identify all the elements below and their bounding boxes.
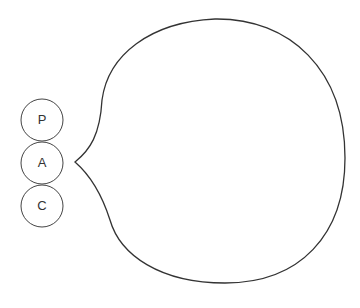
circle-label-p: P (21, 112, 63, 128)
diagram-canvas (0, 0, 360, 308)
speech-bubble-shape (75, 19, 345, 283)
circle-label-c: C (21, 198, 63, 214)
circle-label-a: A (21, 155, 63, 171)
